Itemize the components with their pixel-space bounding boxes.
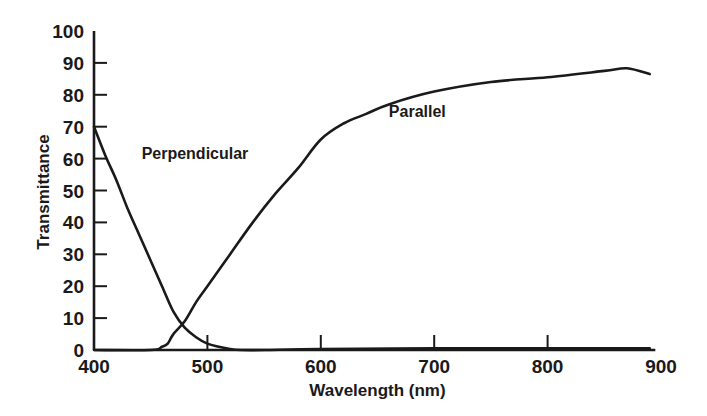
y-tick-label: 90 [63, 53, 84, 74]
y-tick-label: 20 [63, 276, 84, 297]
x-axis-title: Wavelength (nm) [309, 381, 445, 400]
x-tick-label: 400 [78, 356, 110, 377]
series-labels: PerpendicularParallel [142, 103, 446, 161]
y-tick-label: 40 [63, 212, 84, 233]
x-tick-label: 900 [645, 356, 677, 377]
y-tick-label: 70 [63, 117, 84, 138]
parallel-label: Parallel [389, 103, 446, 120]
y-tick-label: 60 [63, 149, 84, 170]
y-axis-ticks: 0102030405060708090100 [52, 21, 107, 361]
parallel-curve [94, 68, 650, 350]
series-curves [94, 68, 650, 350]
x-tick-label: 700 [418, 356, 450, 377]
transmittance-chart: 0102030405060708090100 40050060070080090… [0, 0, 707, 416]
x-tick-label: 500 [192, 356, 224, 377]
y-axis-title: Transmittance [34, 134, 53, 249]
y-tick-label: 80 [63, 85, 84, 106]
y-tick-label: 10 [63, 308, 84, 329]
y-tick-label: 100 [52, 21, 84, 42]
x-tick-label: 600 [305, 356, 337, 377]
y-tick-label: 50 [63, 181, 84, 202]
y-tick-label: 30 [63, 244, 84, 265]
perpendicular-label: Perpendicular [142, 145, 249, 162]
x-tick-label: 800 [532, 356, 564, 377]
